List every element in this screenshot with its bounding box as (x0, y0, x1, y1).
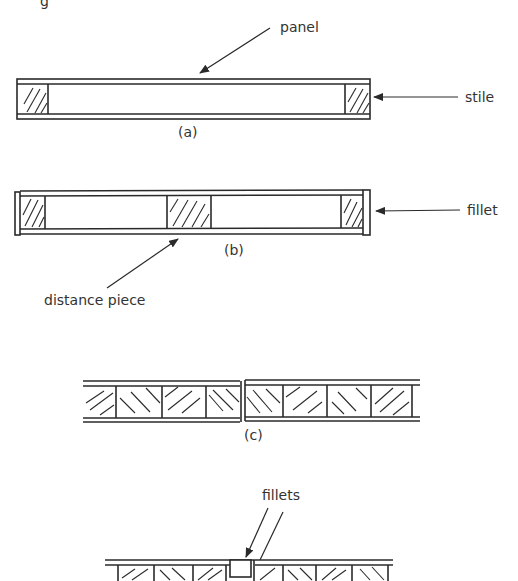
diagram-a: panel stile (a) (17, 19, 494, 140)
diagram-c-caption: (c) (244, 427, 263, 443)
diagram-b-right-stile (341, 195, 362, 228)
diagram-b-top-skin-inner (20, 195, 363, 196)
diagram-c-left-panel (83, 381, 241, 422)
diagram-b-bottom-skin-inner (20, 228, 363, 229)
diagram-b-top-skin-outer (20, 190, 363, 191)
stile-label: stile (465, 89, 494, 105)
diagram-a-right-stile (345, 84, 369, 114)
fillet-arrow (376, 210, 460, 211)
partial-header-text: g (40, 0, 49, 9)
diagram-b-left-stile (23, 196, 45, 229)
panel-construction-figure: g panel stile (a) (0, 0, 518, 581)
diagram-b: fillet distance piece (b) (15, 190, 498, 308)
distance-piece-label: distance piece (44, 292, 145, 308)
diagram-b-distance-piece (167, 196, 211, 229)
diagram-b-left-fillet (15, 192, 20, 235)
fillet-label: fillet (467, 202, 498, 218)
diagram-b-caption: (b) (224, 242, 244, 258)
diagram-d: fillets (105, 487, 393, 581)
distance-piece-arrow (107, 239, 178, 288)
diagram-d-fillet-block (230, 560, 251, 577)
diagram-a-left-stile (24, 84, 48, 114)
diagram-a-outline (17, 79, 370, 119)
fillets-label: fillets (262, 487, 300, 503)
diagram-c-right-panel (245, 380, 420, 421)
diagram-a-caption: (a) (178, 124, 198, 140)
panel-arrow (200, 28, 270, 73)
diagram-c: (c) (83, 380, 420, 443)
diagram-b-right-fillet (363, 190, 370, 235)
panel-label: panel (280, 19, 319, 35)
